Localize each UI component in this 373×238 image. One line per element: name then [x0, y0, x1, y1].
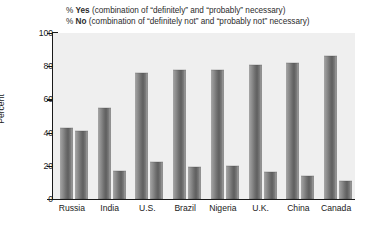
y-axis-title: Percent [0, 94, 6, 124]
bar-nigeria-yes [211, 69, 224, 199]
bars-layer [53, 33, 355, 199]
bar-canada-yes [324, 55, 337, 199]
y-tick-label-60: 60 [23, 94, 53, 104]
bar-group-uk [249, 33, 277, 199]
bar-group-nigeria [211, 33, 239, 199]
bar-group-brazil [173, 33, 201, 199]
bar-india-no [113, 170, 126, 199]
bar-group-russia [60, 33, 88, 199]
chart-legend: % Yes (combination of “definitely” and “… [66, 6, 366, 27]
bar-us-yes [135, 72, 148, 199]
x-axis-label-russia: Russia [53, 203, 91, 213]
bar-russia-no [75, 130, 88, 199]
bar-china-no [301, 175, 314, 199]
bar-china-yes [286, 62, 299, 199]
bar-russia-yes [60, 127, 73, 199]
bar-uk-no [264, 171, 277, 199]
y-tick-label-0: 0 [23, 194, 53, 204]
bar-brazil-no [188, 166, 201, 199]
x-axis-label-brazil: Brazil [166, 203, 204, 213]
bar-brazil-yes [173, 69, 186, 199]
legend-percent-sign-no: % [66, 17, 76, 26]
bar-canada-no [339, 180, 352, 199]
x-axis-label-india: India [91, 203, 129, 213]
legend-key-yes: Yes [76, 6, 90, 15]
bar-group-canada [324, 33, 352, 199]
y-tick-label-40: 40 [23, 128, 53, 138]
x-axis-label-nigeria: Nigeria [204, 203, 242, 213]
x-axis-label-china: China [280, 203, 318, 213]
legend-entry-no: % No (combination of “definitely not” an… [66, 17, 366, 28]
legend-entry-yes: % Yes (combination of “definitely” and “… [66, 6, 366, 17]
x-axis-labels: RussiaIndiaU.S.BrazilNigeriaU.K.ChinaCan… [53, 203, 355, 219]
legend-key-no: No [76, 17, 87, 26]
legend-text-no: (combination of “definitely not” and “pr… [86, 17, 309, 26]
y-tick-label-20: 20 [23, 161, 53, 171]
bar-us-no [150, 161, 163, 199]
bar-group-india [98, 33, 126, 199]
y-tick-label-100: 100 [23, 28, 53, 38]
bar-nigeria-no [226, 165, 239, 199]
legend-percent-sign-yes: % [66, 6, 76, 15]
x-axis-label-us: U.S. [129, 203, 167, 213]
bar-uk-yes [249, 64, 262, 199]
x-axis-label-uk: U.K. [242, 203, 280, 213]
y-tick-label-80: 80 [23, 61, 53, 71]
bar-india-yes [98, 107, 111, 199]
bar-group-us [135, 33, 163, 199]
x-axis-label-canada: Canada [317, 203, 355, 213]
bar-group-china [286, 33, 314, 199]
legend-text-yes: (combination of “definitely” and “probab… [90, 6, 286, 15]
bar-chart: % Yes (combination of “definitely” and “… [0, 0, 373, 238]
